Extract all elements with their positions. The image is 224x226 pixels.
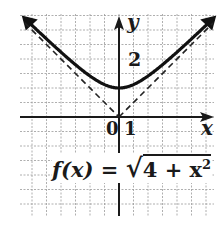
y-tick-label-2: 2 [128,50,141,69]
function-equation: f(x) = √4 + x2 [52,153,211,183]
x-axis-label: x [201,118,213,138]
equation-lhs: f(x) = [52,157,126,182]
sqrt-symbol: √ [126,153,143,183]
equation-radicand: 4 + x2 [143,154,211,182]
function-graph [0,0,224,226]
origin-label: 0 [106,120,119,138]
y-axis-label: y [127,12,139,32]
x-tick-label-1: 1 [124,120,137,138]
equation-exponent: 2 [202,157,211,172]
